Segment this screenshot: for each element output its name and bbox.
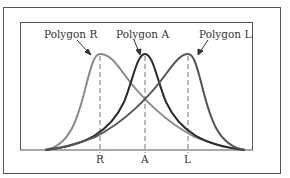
- arrow-a: [134, 40, 141, 55]
- tick-label-r: R: [96, 153, 105, 165]
- label-polygon-a: Polygon A: [116, 28, 169, 40]
- label-polygon-r: Polygon R: [44, 28, 98, 40]
- frequency-polygons-diagram: Polygon R Polygon A Polygon L R A L: [0, 0, 290, 178]
- arrow-r: [77, 40, 91, 55]
- label-polygon-l: Polygon L: [199, 28, 251, 40]
- arrow-l: [198, 40, 208, 55]
- tick-label-l: L: [184, 153, 191, 165]
- tick-label-a: A: [140, 153, 149, 165]
